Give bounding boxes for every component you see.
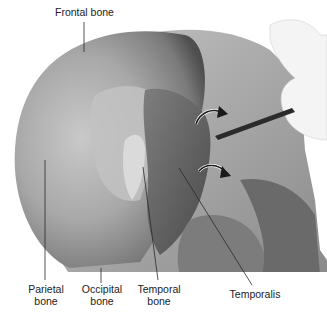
label-temporal-bone: Temporal bone (134, 283, 184, 307)
label-occipital-bone: Occipital bone (78, 283, 126, 307)
dissection-photo (0, 0, 327, 314)
label-temporalis: Temporalis (225, 288, 285, 300)
label-parietal-bone: Parietal bone (24, 283, 68, 307)
anatomy-figure: Frontal bone Parietal bone Occipital bon… (0, 0, 327, 314)
label-frontal-bone: Frontal bone (55, 6, 135, 18)
